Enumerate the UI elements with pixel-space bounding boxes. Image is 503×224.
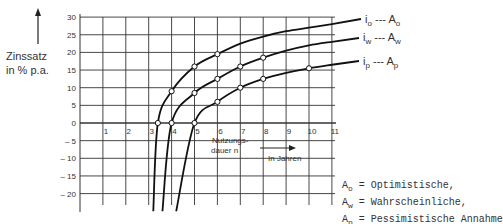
svg-text:10: 10: [67, 84, 76, 93]
svg-text:3: 3: [149, 127, 154, 136]
data-point-marker: [215, 52, 220, 57]
svg-text:8: 8: [264, 127, 269, 136]
curve-p: [176, 65, 332, 211]
x-unit-label: In Jahren: [268, 154, 301, 163]
svg-text:– 5: – 5: [65, 137, 77, 146]
y-axis-label-line2: in % p.a.: [6, 63, 49, 77]
data-point-marker: [261, 76, 266, 81]
svg-text:4: 4: [172, 127, 177, 136]
x-axis-arrow-icon: [260, 145, 296, 151]
svg-text:0: 0: [72, 119, 77, 128]
note-likely: Aw = Wahrscheinliche,: [342, 196, 503, 213]
data-point-marker: [215, 99, 220, 104]
svg-text:7: 7: [241, 127, 246, 136]
svg-text:9: 9: [287, 127, 292, 136]
svg-text:– 10: – 10: [60, 154, 76, 163]
data-point-marker: [238, 64, 243, 69]
svg-text:20: 20: [67, 48, 76, 57]
x-label-2: dauer n: [211, 146, 238, 155]
svg-text:5: 5: [72, 101, 77, 110]
svg-text:30: 30: [67, 13, 76, 22]
data-point-marker: [192, 90, 197, 95]
svg-text:11: 11: [331, 127, 340, 136]
svg-text:5: 5: [195, 127, 200, 136]
x-tick-labels: 1234567891011: [104, 127, 340, 136]
svg-text:1: 1: [104, 127, 109, 136]
data-point-marker: [169, 120, 174, 125]
note-optimistic: Ao = Optimistische,: [342, 179, 503, 196]
legend-p: ip --- Ap: [363, 55, 398, 70]
data-point-marker: [215, 76, 220, 81]
svg-text:15: 15: [67, 66, 76, 75]
data-point-marker: [169, 89, 174, 94]
legend-w: iw --- Aw: [363, 31, 401, 46]
y-axis-label: Zinssatz in % p.a.: [6, 49, 49, 77]
data-point-marker: [155, 120, 160, 125]
y-axis-label-line1: Zinssatz: [6, 49, 49, 63]
svg-text:2: 2: [127, 127, 132, 136]
data-point-marker: [261, 55, 266, 60]
svg-text:25: 25: [67, 31, 76, 40]
y-axis-arrow-icon: [35, 8, 41, 44]
legend-o: io --- Ao: [365, 13, 400, 28]
svg-text:– 15: – 15: [60, 172, 76, 181]
x-label-1: Nutzungs-: [212, 136, 249, 145]
data-point-marker: [192, 64, 197, 69]
y-tick-labels: 302520151050– 5– 10– 15– 20: [60, 13, 76, 199]
svg-text:6: 6: [218, 127, 223, 136]
grid: [80, 14, 336, 212]
data-point-marker: [192, 120, 197, 125]
assumption-notes: Ao = Optimistische, Aw = Wahrscheinliche…: [342, 179, 503, 224]
data-point-marker: [306, 66, 311, 71]
data-point-marker: [238, 85, 243, 90]
note-pessimistic: Ap = Pessimistische Annahme: [342, 213, 503, 224]
svg-text:– 20: – 20: [60, 190, 76, 199]
svg-text:10: 10: [308, 127, 317, 136]
legend-leaders: [332, 19, 361, 65]
